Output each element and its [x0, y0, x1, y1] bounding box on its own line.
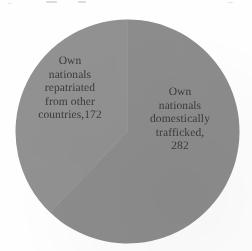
pie-label-own-nationals-repatriated: Own nationals repatriated from other cou… [18, 55, 122, 123]
cropped-title-remnant [46, 1, 57, 3]
cropped-title-remnant [8, 3, 12, 4]
pie-chart-figure: Own nationals repatriated from other cou… [0, 0, 252, 251]
pie-label-own-nationals-domestically-trafficked: Own nationals domestically trafficked, 2… [133, 86, 227, 154]
cropped-title-remnant [228, 2, 233, 3]
cropped-title-remnant [78, 1, 86, 3]
